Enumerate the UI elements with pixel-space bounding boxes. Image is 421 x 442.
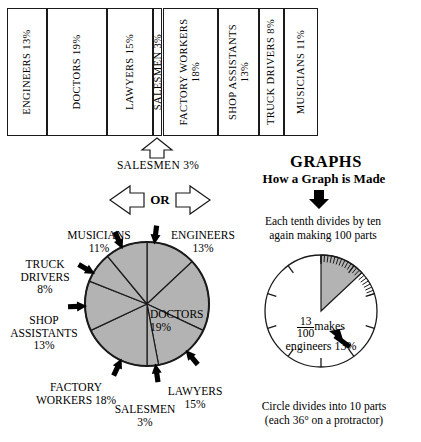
- pie-label-shop-assistants: SHOPASSISTANTS13%: [0, 314, 88, 352]
- pie-label-line: MUSICIANS: [67, 229, 130, 241]
- bar-segment-label-truck-drivers: TRUCK DRIVERS 8%: [265, 19, 277, 125]
- pie-label-line: 13%: [33, 339, 54, 351]
- protractor-minor-tick: [359, 275, 364, 279]
- protractor-highlight-wedge: [321, 255, 362, 311]
- page-subtitle: How a Graph is Made: [226, 171, 421, 187]
- pie-label-line: 11%: [89, 242, 110, 254]
- pie-label-line: TRUCK: [26, 258, 65, 270]
- salesmen-up-arrow-icon: [139, 137, 175, 159]
- pie-label-line: ASSISTANTS: [10, 327, 77, 339]
- protractor-minor-tick: [367, 290, 374, 293]
- pie-label-line: 8%: [37, 283, 52, 295]
- poster-canvas: ENGINEERS 13%DOCTORS 19%LAWYERS 15%SALES…: [0, 0, 421, 442]
- or-connector: OR: [104, 182, 216, 218]
- pie-label-line: SHOP: [29, 314, 58, 326]
- bar-segment-label-musicians: MUSICIANS 11%: [295, 30, 307, 114]
- bar-segment-label-lawyers: LAWYERS 15%: [124, 34, 136, 110]
- pie-label-line: DOCTORS: [150, 308, 203, 320]
- bar-segment-musicians[interactable]: MUSICIANS 11%: [284, 8, 318, 136]
- bar-segment-salesmen[interactable]: SALESMEN 3%: [153, 8, 162, 136]
- protractor-major-tick: [288, 266, 293, 273]
- stacked-bar-chart: ENGINEERS 13%DOCTORS 19%LAWYERS 15%SALES…: [7, 8, 318, 136]
- or-label: OR: [104, 182, 216, 218]
- pie-label-doctors: DOCTORS19%: [150, 308, 220, 333]
- protractor-minor-tick: [362, 281, 368, 285]
- bar-segment-label-doctors: DOCTORS 19%: [71, 34, 83, 109]
- pie-label-line: 13%: [192, 242, 213, 254]
- bar-segment-lawyers[interactable]: LAWYERS 15%: [107, 8, 154, 136]
- fraction-13-over-100: 13 100: [297, 316, 314, 339]
- bar-segment-factory-workers[interactable]: FACTORY WORKERS 18%: [163, 8, 219, 136]
- fraction-suffix: makes: [314, 319, 345, 333]
- pie-label-truck-drivers: TRUCKDRIVERS8%: [6, 258, 84, 296]
- protractor-circle-diagram: [258, 248, 384, 374]
- pie-label-engineers: ENGINEERS13%: [158, 229, 248, 254]
- protractor-minor-tick: [368, 294, 375, 296]
- protractor-top-note: Each tenth divides by ten again making 1…: [230, 214, 416, 242]
- bar-segment-label-engineers: ENGINEERS 13%: [21, 29, 33, 114]
- fraction-denominator: 100: [297, 327, 314, 339]
- protractor-note-line2: again making 100 parts: [269, 229, 377, 241]
- protractor-caption: Circle divides into 10 parts (each 36° o…: [228, 399, 420, 427]
- bar-segment-truck-drivers[interactable]: TRUCK DRIVERS 8%: [259, 8, 284, 136]
- fraction-note: 13 100 makes engineers 13%: [258, 316, 384, 353]
- pie-label-line: 19%: [150, 321, 171, 333]
- pie-label-line: DRIVERS: [20, 271, 69, 283]
- pie-label-line: 15%: [184, 398, 205, 410]
- pie-label-line: FACTORY: [50, 381, 102, 393]
- protractor-note-line1: Each tenth divides by ten: [265, 215, 381, 227]
- protractor-major-tick: [268, 294, 277, 297]
- salesmen-callout-label: SALESMEN 3%: [88, 159, 228, 171]
- fraction-result: engineers 13%: [286, 339, 357, 353]
- bar-segment-engineers[interactable]: ENGINEERS 13%: [7, 8, 47, 136]
- protractor-caption-line2: (each 36° on a protractor): [265, 414, 383, 426]
- bar-segment-label-factory-workers: FACTORY WORKERS 18%: [178, 13, 202, 131]
- bar-segment-doctors[interactable]: DOCTORS 19%: [47, 8, 106, 136]
- bar-segment-label-shop-assistants: SHOP ASSISTANTS 13%: [227, 13, 251, 131]
- pie-label-lawyers: LAWYERS15%: [162, 385, 228, 410]
- pie-label-line: LAWYERS: [168, 385, 223, 397]
- protractor-minor-tick: [365, 287, 371, 290]
- protractor-minor-tick: [364, 284, 370, 287]
- page-title: GRAPHS: [236, 152, 416, 172]
- protractor-minor-tick: [361, 278, 367, 282]
- pie-label-musicians: MUSICIANS11%: [54, 229, 144, 254]
- pie-label-line: ENGINEERS: [171, 229, 235, 241]
- pie-label-line: 3%: [137, 416, 152, 428]
- bar-segment-shop-assistants[interactable]: SHOP ASSISTANTS 13%: [218, 8, 258, 136]
- fraction-numerator: 13: [297, 316, 314, 327]
- down-arrow-icon: [308, 190, 330, 210]
- protractor-caption-line1: Circle divides into 10 parts: [262, 400, 387, 412]
